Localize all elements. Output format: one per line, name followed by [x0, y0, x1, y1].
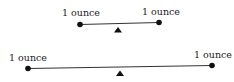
bottom-left-label: 1 ounce	[9, 52, 47, 63]
top-balance: 1 ounce 1 ounce	[62, 6, 180, 33]
bottom-balance: 1 ounce 1 ounce	[9, 49, 232, 76]
bottom-right-weight	[209, 63, 215, 69]
bottom-fulcrum-icon	[116, 71, 124, 77]
bottom-right-label: 1 ounce	[194, 49, 232, 60]
top-left-label: 1 ounce	[62, 7, 100, 18]
top-left-weight	[77, 22, 83, 28]
top-beam	[80, 23, 159, 25]
balance-diagram: 1 ounce 1 ounce 1 ounce 1 ounce	[0, 0, 234, 82]
bottom-beam	[28, 66, 212, 69]
bottom-left-weight	[25, 66, 31, 72]
top-right-weight	[156, 20, 162, 26]
top-right-label: 1 ounce	[142, 6, 180, 17]
top-fulcrum-icon	[114, 27, 122, 33]
